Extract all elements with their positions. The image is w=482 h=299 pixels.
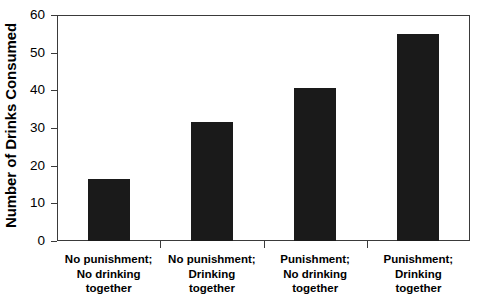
y-tick-label: 20 (3, 159, 45, 173)
x-category-label-line: together (57, 281, 160, 296)
x-tick-mark (367, 241, 368, 248)
y-tick-mark (51, 90, 57, 91)
y-tick-label: 50 (3, 46, 45, 60)
x-tick-mark (264, 241, 265, 248)
y-tick-mark (51, 15, 57, 16)
x-category-label-line: No punishment; (160, 252, 263, 267)
bar (88, 179, 130, 241)
x-category-label-line: together (264, 281, 367, 296)
y-tick-mark (51, 203, 57, 204)
x-category-label-line: together (367, 281, 470, 296)
x-category-label: No punishment;Drinkingtogether (160, 252, 263, 296)
bar-chart: Number of Drinks Consumed 0102030405060 … (0, 0, 482, 299)
x-category-label-line: No drinking (57, 267, 160, 282)
bar (294, 88, 336, 241)
x-category-label: No punishment;No drinkingtogether (57, 252, 160, 296)
x-category-label-line: Drinking (367, 267, 470, 282)
x-category-label-line: Punishment; (367, 252, 470, 267)
y-tick-label: 10 (3, 196, 45, 210)
y-tick-mark (51, 166, 57, 167)
y-tick-label: 40 (3, 83, 45, 97)
y-tick-mark (51, 241, 57, 242)
x-category-label: Punishment;Drinkingtogether (367, 252, 470, 296)
bar (397, 34, 439, 241)
y-tick-label: 0 (3, 234, 45, 248)
bar (191, 122, 233, 241)
x-category-label-line: No drinking (264, 267, 367, 282)
y-tick-mark (51, 53, 57, 54)
x-category-label-line: No punishment; (57, 252, 160, 267)
x-category-label: Punishment;No drinkingtogether (264, 252, 367, 296)
x-category-label-line: together (160, 281, 263, 296)
x-category-label-line: Punishment; (264, 252, 367, 267)
y-tick-mark (51, 128, 57, 129)
x-category-label-line: Drinking (160, 267, 263, 282)
x-tick-mark (160, 241, 161, 248)
y-tick-label: 60 (3, 8, 45, 22)
y-tick-label: 30 (3, 121, 45, 135)
